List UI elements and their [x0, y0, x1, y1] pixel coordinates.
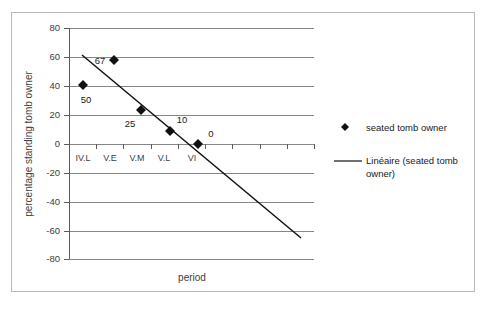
data-point-label-0: 50 — [81, 94, 92, 105]
data-points — [78, 55, 203, 149]
y-tick-label-8: -80 — [46, 253, 60, 264]
x-category-label-1: V.E — [103, 153, 117, 163]
data-point-label-4: 0 — [208, 128, 213, 139]
data-point-label-1: 67 — [95, 55, 106, 66]
legend-label-seated-tomb-owner[interactable]: seated tomb owner — [366, 122, 447, 133]
chart-frame: 80 60 40 20 0 -20 -40 -60 -80 IV.L V.E — [11, 12, 475, 292]
chart-canvas: 80 60 40 20 0 -20 -40 -60 -80 IV.L V.E — [12, 13, 474, 291]
y-tick-label-5: -20 — [46, 167, 60, 178]
x-axis-title: period — [178, 272, 206, 283]
legend-label-linear-trend-line2[interactable]: owner) — [366, 168, 395, 179]
x-category-label-3: V.L — [158, 153, 171, 163]
y-tick-label-2: 40 — [49, 80, 60, 91]
legend-diamond-marker-icon — [341, 123, 349, 131]
y-axis-ticks — [64, 28, 69, 259]
x-category-label-2: V.M — [129, 153, 144, 163]
x-category-label-0: IV.L — [75, 153, 90, 163]
data-point-labels: 50 67 25 10 0 — [81, 55, 214, 139]
y-tick-label-3: 20 — [49, 109, 60, 120]
y-axis-tick-labels: 80 60 40 20 0 -20 -40 -60 -80 — [46, 22, 60, 264]
y-tick-label-6: -40 — [46, 196, 60, 207]
y-tick-label-1: 60 — [49, 51, 60, 62]
y-tick-label-7: -60 — [46, 225, 60, 236]
y-tick-label-4: 0 — [55, 138, 60, 149]
y-tick-label-0: 80 — [49, 22, 60, 33]
data-point-label-3: 10 — [177, 114, 188, 125]
x-category-label-4: VI — [188, 153, 197, 163]
legend-label-linear-trend-line1[interactable]: Linéaire (seated tomb — [366, 155, 458, 166]
data-point-marker-0[interactable] — [78, 80, 88, 90]
legend: seated tomb owner Linéaire (seated tomb … — [334, 122, 458, 179]
x-axis-category-labels: IV.L V.E V.M V.L VI — [75, 153, 196, 163]
data-point-label-2: 25 — [125, 118, 136, 129]
trendline-linear-seated-tomb-owner — [82, 55, 301, 238]
y-axis-title: percentage standing tomb owner — [23, 71, 34, 217]
gridlines — [69, 28, 314, 259]
data-point-marker-3[interactable] — [165, 126, 175, 136]
data-point-marker-4[interactable] — [193, 139, 203, 149]
